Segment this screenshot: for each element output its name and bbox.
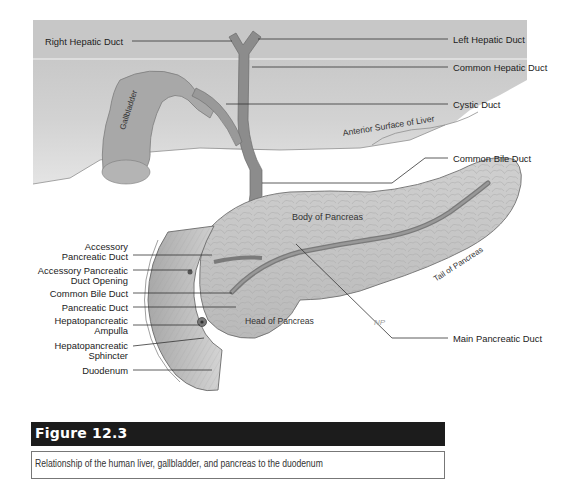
label-body-of-pancreas: Body of Pancreas [292,212,363,222]
label-common-hepatic-duct: Common Hepatic Duct [453,62,547,73]
label-pancreatic-duct: Pancreatic Duct [0,302,128,313]
label-right-hepatic-duct: Right Hepatic Duct [45,36,123,47]
label-head-of-pancreas: Head of Pancreas [245,316,314,326]
label-duodenum: Duodenum [0,365,128,376]
label-left-hepatic-duct: Left Hepatic Duct [453,34,525,45]
label-cystic-duct: Cystic Duct [453,99,500,110]
label-common-bile-duct-right: Common Bile Duct [453,153,531,164]
label-accessory-pancreatic-duct-opening-line2: Duct Opening [0,275,128,286]
figure-caption: Relationship of the human liver, gallbla… [35,458,323,469]
label-hepatopancreatic-sphincter-line2: Sphincter [0,350,128,361]
figure-title-bar: Figure 12.3 [31,422,445,446]
label-common-bile-duct-left: Common Bile Duct [0,288,128,299]
label-accessory-pancreatic-duct-line2: Pancreatic Duct [0,251,128,262]
label-main-pancreatic-duct: Main Pancreatic Duct [453,333,542,344]
figure-caption-box: Relationship of the human liver, gallbla… [31,451,445,479]
figure-title: Figure 12.3 [35,425,127,441]
anatomy-figure: Right Hepatic Duct Accessory Pancreatic … [0,0,582,485]
label-hepatopancreatic-ampulla-line2: Ampulla [0,325,128,336]
artist-signature: NP [374,318,385,327]
